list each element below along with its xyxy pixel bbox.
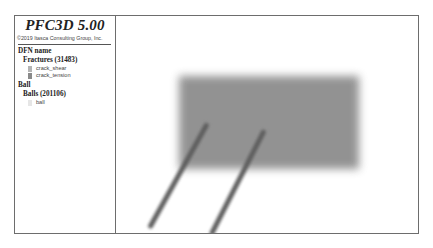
legend-item-crack-tension: crack_tension — [36, 72, 71, 78]
legend-balls-heading: Balls (201106) — [23, 90, 66, 98]
legend-separator — [18, 44, 111, 45]
legend-item-crack-shear: crack_shear — [36, 65, 66, 71]
legend-panel: PFC3D 5.00 ©2019 Itasca Consulting Group… — [15, 16, 116, 233]
ball-swatch-icon — [28, 100, 32, 106]
app-title: PFC3D 5.00 — [15, 17, 115, 34]
copyright-text: ©2019 Itasca Consulting Group, Inc. — [17, 35, 102, 41]
plot-frame: PFC3D 5.00 ©2019 Itasca Consulting Group… — [14, 15, 419, 234]
legend-group-ball-heading: Ball — [18, 81, 30, 89]
crack-shear-swatch-icon — [28, 66, 32, 72]
legend-fractures-heading: Fractures (31483) — [23, 56, 77, 64]
legend-item-ball: ball — [36, 99, 45, 105]
3d-viewport[interactable] — [116, 16, 418, 233]
legend-group-dfn-heading: DFN name — [18, 47, 51, 55]
crack-tension-swatch-icon — [28, 73, 32, 79]
